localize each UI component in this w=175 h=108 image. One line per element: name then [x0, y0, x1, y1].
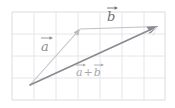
vector-a-term: a	[41, 36, 49, 53]
vector-addition-figure: a b a + b	[0, 0, 175, 108]
arrow-accent-icon	[76, 63, 86, 67]
vector-sum-label: a + b	[76, 63, 101, 78]
vector-sum-first-term: a	[76, 63, 83, 78]
vector-a-arrow	[30, 29, 80, 86]
vector-b-label: b	[107, 6, 115, 23]
vector-diagram-canvas	[0, 0, 175, 108]
arrow-accent-icon	[94, 63, 104, 67]
vector-b-letter: b	[107, 10, 115, 23]
vector-sum-operator: +	[83, 67, 94, 78]
vector-b-term: b	[107, 6, 115, 23]
arrow-accent-icon	[107, 6, 118, 10]
grid-lines	[12, 12, 165, 100]
vector-b-arrow	[80, 27, 158, 30]
vector-sum-second-term: b	[94, 63, 101, 78]
vector-a-label: a	[41, 36, 49, 53]
vector-a-letter: a	[41, 40, 49, 53]
vector-sum-second-letter: b	[94, 67, 101, 78]
vector-sum-first-letter: a	[76, 67, 83, 78]
arrow-accent-icon	[41, 36, 53, 40]
